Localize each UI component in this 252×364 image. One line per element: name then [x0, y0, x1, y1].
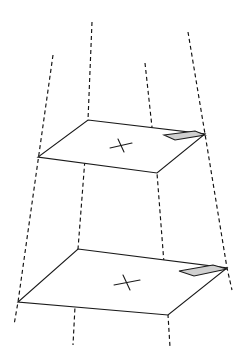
figure-root [0, 0, 252, 364]
projection-diagram [0, 0, 252, 364]
